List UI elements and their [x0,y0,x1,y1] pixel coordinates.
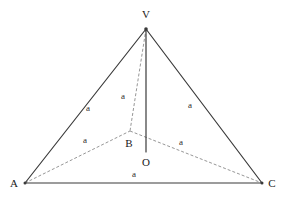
vertex-label-v: V [142,8,150,20]
vertex-label-o: O [142,156,150,168]
length-label-bc: a [179,137,183,147]
vertex-dot-a [24,182,27,185]
vertex-label-c: C [268,177,275,189]
vertex-label-a: A [10,177,18,189]
length-label-ab: a [83,135,87,145]
vertex-label-b: B [125,137,132,149]
length-label-ac: a [132,169,136,179]
length-label-av: a [86,103,90,113]
figure-background [0,0,287,200]
length-label-vc: a [188,100,192,110]
length-label-vb: a [121,91,125,101]
geometry-figure: V A C B O a a a a a a [0,0,287,200]
figure-canvas: V A C B O a a a a a a [0,0,287,200]
vertex-dot-c [261,182,264,185]
vertex-dot-v [144,27,148,31]
